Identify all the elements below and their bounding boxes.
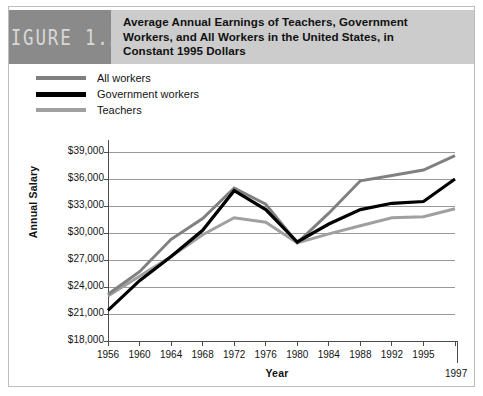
x-axis-tick-label: 1972 — [214, 349, 254, 360]
y-axis-tick-label: $27,000 — [44, 253, 104, 264]
x-axis-tick-label: 1995 — [403, 349, 443, 360]
legend-swatch-all-workers — [36, 76, 86, 80]
figure-header: FIGURE 1.3 Average Annual Earnings of Te… — [9, 10, 474, 64]
figure-title-line-2: Workers, and All Workers in the United S… — [123, 30, 474, 44]
x-axis-tick-label: 1976 — [246, 349, 286, 360]
y-axis-tick-label: $30,000 — [44, 226, 104, 237]
figure-container: FIGURE 1.3 Average Annual Earnings of Te… — [0, 0, 483, 396]
figure-title-line-1: Average Annual Earnings of Teachers, Gov… — [123, 15, 474, 29]
figure-number-badge: FIGURE 1.3 — [9, 10, 111, 64]
y-axis-tick-label: $36,000 — [44, 172, 104, 183]
legend-label-teachers: Teachers — [97, 104, 142, 116]
x-axis-tick-label: 1968 — [183, 349, 223, 360]
x-axis-tick-label: 1992 — [372, 349, 412, 360]
y-axis-tick-label: $21,000 — [44, 307, 104, 318]
x-axis-tick-label: 1997 — [445, 368, 467, 379]
series-line-teachers — [108, 209, 455, 296]
x-axis-tick-label: 1964 — [151, 349, 191, 360]
chart-legend: All workers Government workers Teachers — [36, 70, 199, 118]
x-axis-tick-label: 1980 — [277, 349, 317, 360]
figure-title-line-3: Constant 1995 Dollars — [123, 44, 474, 58]
legend-item-teachers: Teachers — [36, 102, 199, 118]
series-line-government-workers — [108, 179, 455, 310]
y-axis-tick-label: $33,000 — [44, 199, 104, 210]
legend-label-all-workers: All workers — [97, 72, 151, 84]
legend-label-government-workers: Government workers — [97, 88, 199, 100]
y-axis-tick-label: $18,000 — [44, 334, 104, 345]
x-axis-tick-label: 1956 — [88, 349, 128, 360]
x-axis-tick-label: 1988 — [340, 349, 380, 360]
legend-item-government-workers: Government workers — [36, 86, 199, 102]
x-axis-title: Year — [266, 367, 289, 379]
series-line-all-workers — [108, 156, 455, 295]
figure-number-label: FIGURE 1.3 — [9, 25, 111, 50]
legend-item-all-workers: All workers — [36, 70, 199, 86]
legend-swatch-teachers — [36, 108, 86, 112]
figure-title-panel: Average Annual Earnings of Teachers, Gov… — [111, 10, 474, 64]
y-axis-title: Annual Salary — [27, 142, 39, 262]
x-axis-tick-label: 1960 — [120, 349, 160, 360]
x-axis-tick-label: 1984 — [309, 349, 349, 360]
y-axis-tick-label: $39,000 — [44, 145, 104, 156]
y-axis-tick-label: $24,000 — [44, 280, 104, 291]
legend-swatch-government-workers — [36, 92, 86, 97]
